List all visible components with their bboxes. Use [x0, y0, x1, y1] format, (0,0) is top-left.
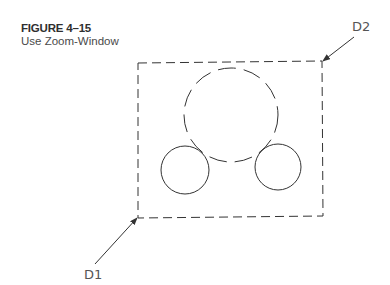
cad-drawing: D1 D2 [0, 0, 390, 285]
left-small-circle [161, 146, 209, 194]
large-circle [184, 68, 278, 162]
d1-label: D1 [84, 267, 102, 282]
right-small-circle [255, 144, 301, 190]
d2-leader-arrow [323, 37, 354, 61]
zoom-window-rectangle [138, 61, 323, 218]
d1-leader-arrow [95, 218, 137, 264]
d2-label: D2 [352, 19, 370, 34]
